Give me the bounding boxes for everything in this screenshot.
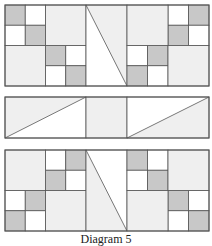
white-square xyxy=(5,25,25,45)
diagram-caption: Diagram 5 xyxy=(0,232,212,246)
white-square xyxy=(25,5,45,25)
gray-square xyxy=(148,170,169,190)
white-square xyxy=(168,5,189,25)
gray-square xyxy=(168,25,189,45)
large-light-square xyxy=(46,191,87,232)
gray-square xyxy=(5,5,25,25)
white-square xyxy=(25,211,45,231)
white-square xyxy=(66,46,86,66)
white-square xyxy=(5,191,25,211)
gray-square xyxy=(5,211,25,231)
gray-square xyxy=(25,25,45,45)
white-square xyxy=(46,150,66,170)
large-light-square xyxy=(5,46,46,87)
gray-square xyxy=(148,46,169,66)
white-square xyxy=(168,211,189,231)
white-square xyxy=(189,191,210,211)
gray-square xyxy=(25,191,45,211)
large-light-square xyxy=(127,191,168,232)
gray-square xyxy=(46,46,66,66)
white-square xyxy=(127,46,148,66)
gray-square xyxy=(189,211,210,231)
quilt-diagram xyxy=(0,0,212,246)
gray-square xyxy=(66,150,86,170)
white-square xyxy=(46,66,66,86)
white-square xyxy=(127,170,148,190)
white-square xyxy=(66,170,86,190)
gray-square xyxy=(66,66,86,86)
gray-square xyxy=(127,66,148,86)
bottom-quilt-block xyxy=(5,150,209,231)
white-square xyxy=(189,25,210,45)
solid-square xyxy=(86,97,127,138)
large-light-square xyxy=(168,150,209,191)
gray-square xyxy=(189,5,210,25)
gray-square xyxy=(127,150,148,170)
white-square xyxy=(148,150,169,170)
top-quilt-block xyxy=(5,5,209,86)
gray-square xyxy=(46,170,66,190)
white-square xyxy=(148,66,169,86)
large-light-square xyxy=(127,5,168,46)
gray-square xyxy=(168,191,189,211)
middle-sashing-strip xyxy=(5,97,209,138)
large-light-square xyxy=(46,5,87,46)
large-light-square xyxy=(168,46,209,87)
large-light-square xyxy=(5,150,46,191)
